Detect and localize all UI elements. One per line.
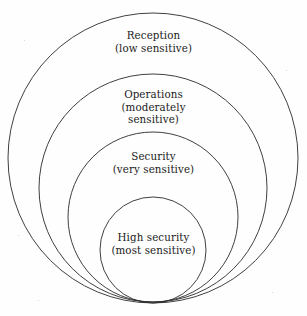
paper-speckle	[286, 70, 287, 71]
zone-name-high-security: High security	[0, 231, 307, 244]
zone-sensitivity-reception: (low sensitive)	[0, 42, 307, 55]
zone-name-security: Security	[0, 150, 307, 163]
paper-speckle	[18, 235, 19, 236]
zone-sensitivity-security: (very sensitive)	[0, 163, 307, 176]
zone-label-high-security: High security (most sensitive)	[0, 231, 307, 256]
zone-sensitivity-operations-line-1: (moderately	[0, 101, 307, 114]
zone-label-operations: Operations (moderately sensitive)	[0, 88, 307, 126]
zone-name-reception: Reception	[0, 29, 307, 42]
paper-speckle	[24, 40, 25, 41]
zone-name-operations: Operations	[0, 88, 307, 101]
zone-sensitivity-high-security: (most sensitive)	[0, 244, 307, 257]
zone-sensitivity-operations-line-2: sensitive)	[0, 113, 307, 126]
paper-speckle	[38, 300, 39, 301]
zone-label-security: Security (very sensitive)	[0, 150, 307, 175]
zone-label-reception: Reception (low sensitive)	[0, 29, 307, 54]
paper-speckle	[272, 292, 273, 293]
security-zones-diagram: Reception (low sensitive) Operations (mo…	[0, 0, 307, 316]
